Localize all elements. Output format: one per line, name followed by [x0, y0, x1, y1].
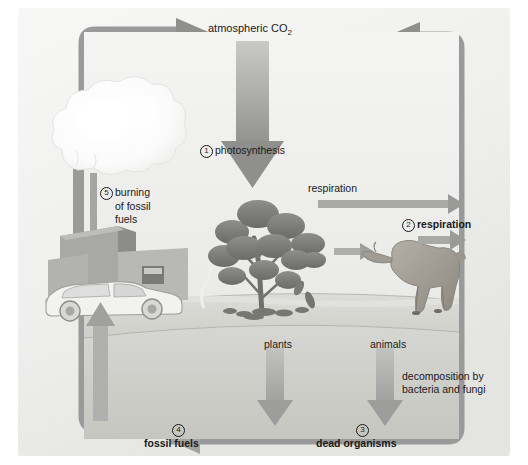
step-number-3: 3	[356, 424, 369, 437]
label-fossil-fuels: 4 fossil fuels	[144, 423, 234, 450]
label-dead-organisms: 3 dead organisms	[316, 423, 436, 450]
factory-door-window	[144, 268, 162, 274]
label-animals: animals	[370, 338, 406, 351]
step-number-5: 5	[100, 187, 113, 200]
label-photosynthesis: 1photosynthesis	[200, 144, 285, 158]
label-plants: plants	[264, 338, 292, 351]
carbon-cycle-diagram: atmospheric CO2 1photosynthesis respirat…	[0, 0, 528, 465]
deer-hoof-1	[434, 309, 442, 313]
label-respiration-animals: 2respiration	[402, 218, 471, 232]
deer-hoof-2	[412, 311, 420, 315]
label-decomposition: decomposition by bacteria and fungi	[402, 370, 485, 395]
label-respiration-plants: respiration	[308, 182, 357, 195]
step-number-1: 1	[200, 145, 213, 158]
label-atmospheric-co2: atmospheric CO2	[208, 22, 292, 40]
label-burning-fossil-fuels: 5burning of fossil fuels	[100, 186, 151, 225]
diagram-canvas: atmospheric CO2 1photosynthesis respirat…	[18, 8, 510, 456]
step-number-4: 4	[172, 424, 185, 437]
step-number-2: 2	[402, 219, 415, 232]
